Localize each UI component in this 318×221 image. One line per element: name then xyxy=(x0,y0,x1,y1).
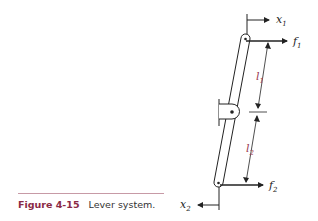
x2-displacement-arrow: x2 xyxy=(180,187,219,213)
l2-dimension: l2 xyxy=(243,115,260,183)
f1-force-arrow: f1 xyxy=(246,35,302,50)
svg-text:l2: l2 xyxy=(246,142,255,157)
l1-dimension: l1 xyxy=(255,42,271,109)
x1-displacement-arrow: x1 xyxy=(247,13,287,38)
figure-title: Lever system. xyxy=(89,199,156,210)
svg-text:x1: x1 xyxy=(276,13,287,28)
svg-text:f2: f2 xyxy=(268,179,278,194)
caption-rule xyxy=(18,193,164,194)
figure-caption: Figure 4-15Lever system. xyxy=(18,199,155,210)
svg-text:l1: l1 xyxy=(256,70,264,85)
svg-text:x2: x2 xyxy=(180,198,191,213)
f2-force-arrow: f2 xyxy=(220,179,278,194)
figure-number: Figure 4-15 xyxy=(18,199,80,210)
svg-text:f1: f1 xyxy=(292,35,302,50)
lever-system-diagram: x1 f1 l1 l2 f2 x2 xyxy=(0,0,318,221)
pivot-point xyxy=(230,110,234,114)
